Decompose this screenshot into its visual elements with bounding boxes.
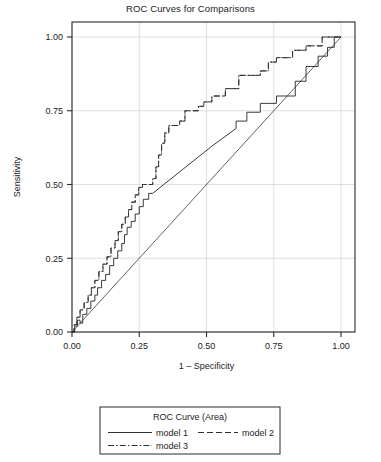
chart-legend: ROC Curve (Area)model 1model 2model 3 [100,407,280,454]
legend-title: ROC Curve (Area) [153,412,227,422]
xtick-label-4: 1.00 [332,341,350,351]
xtick-label-0: 0.00 [63,341,81,351]
ytick-label-1: 0.25 [45,254,63,264]
ytick-label-2: 0.50 [45,180,63,190]
legend-label-model-3: model 3 [156,441,188,451]
roc-chart-figure: ROC Curves for Comparisons 0.000.250.500… [0,0,381,462]
legend-label-model-1: model 1 [156,428,188,438]
ytick-label-0: 0.00 [45,327,63,337]
legend-label-model-2: model 2 [242,428,274,438]
x-axis-title: 1 – Specificity [179,361,235,371]
chart-title: ROC Curves for Comparisons [0,3,381,14]
ytick-label-4: 1.00 [45,32,63,42]
xtick-label-2: 0.50 [198,341,216,351]
y-axis-title: Sensitivity [12,156,22,197]
xtick-label-3: 0.75 [265,341,283,351]
ytick-label-3: 0.75 [45,106,63,116]
chart-canvas: 0.000.250.500.751.000.000.250.500.751.00… [0,0,381,462]
xtick-label-1: 0.25 [130,341,148,351]
